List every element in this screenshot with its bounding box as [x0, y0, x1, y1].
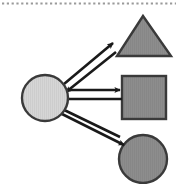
target-circle-shape — [119, 135, 167, 183]
source-circle-shape — [22, 75, 68, 121]
node-source-circle[interactable] — [22, 75, 68, 121]
arrow-circle-to-bottomcircle — [62, 114, 124, 145]
square-shape — [122, 76, 166, 119]
node-target-square[interactable] — [122, 76, 166, 119]
diagram-canvas: Bidirectional node-shape relationship di… — [0, 0, 178, 184]
diagram-svg — [0, 0, 178, 184]
node-target-triangle[interactable] — [117, 16, 171, 56]
connection-circle-bottomcircle[interactable] — [58, 107, 124, 145]
arrow-bottomcircle-to-circle — [58, 107, 120, 137]
connection-circle-triangle[interactable] — [64, 43, 116, 92]
triangle-shape — [117, 16, 171, 56]
arrow-triangle-to-circle — [66, 52, 116, 92]
arrow-circle-to-triangle — [64, 43, 113, 84]
node-target-circle[interactable] — [119, 135, 167, 183]
